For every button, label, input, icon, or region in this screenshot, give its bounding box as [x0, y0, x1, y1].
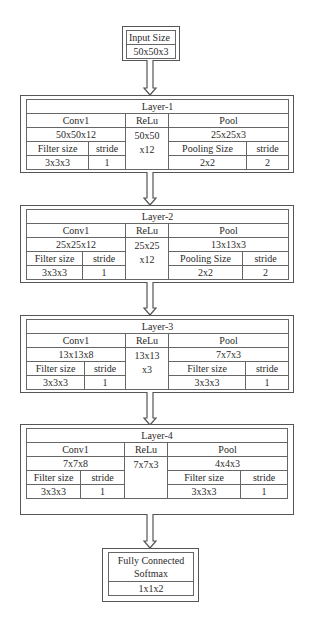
pool-stride: 2	[247, 156, 289, 170]
input-value: 50x50x3	[127, 45, 176, 59]
layer-3-table: Layer-3 Conv1 ReLu Pool 13x13x8 13x13x3 …	[26, 319, 289, 390]
conv-stride-label: stride	[83, 252, 126, 266]
conv-stride-label: stride	[89, 142, 126, 156]
conv-filter: 3x3x3	[27, 156, 89, 170]
arrow-down-icon	[140, 514, 160, 549]
pool-label: Pool	[169, 224, 289, 238]
layer-4-title: Layer-4	[27, 429, 288, 443]
conv-stride-label: stride	[81, 471, 125, 485]
relu-output: 13x13x3	[126, 348, 169, 390]
relu-output: 50x50x12	[126, 128, 169, 170]
pool-output: 4x4x3	[168, 457, 288, 471]
conv-filter: 3x3x3	[27, 485, 81, 499]
pool-size-label: Filter size	[169, 362, 246, 376]
pool-stride: 1	[246, 376, 289, 390]
arrow-down-icon	[140, 60, 160, 96]
conv-filter-label: Filter size	[27, 471, 81, 485]
conv-label: Conv1	[27, 334, 126, 348]
conv-filter: 3x3x3	[27, 266, 83, 280]
layer-3-title: Layer-3	[27, 320, 289, 334]
conv-output: 50x50x12	[27, 128, 126, 142]
conv-label: Conv1	[27, 114, 126, 128]
pool-output: 25x25x3	[169, 128, 289, 142]
pool-size-label: Filter size	[168, 471, 241, 485]
layer-2-title: Layer-2	[27, 210, 289, 224]
pool-size-label: Pooling Size	[169, 142, 247, 156]
output-label: Fully ConnectedSoftmax	[109, 553, 194, 582]
relu-label: ReLu	[126, 334, 169, 348]
conv-output: 13x13x8	[27, 348, 126, 362]
pool-output: 13x13x3	[169, 238, 289, 252]
pool-size: 2x2	[169, 266, 243, 280]
conv-filter-label: Filter size	[27, 142, 89, 156]
pool-label: Pool	[169, 334, 289, 348]
pool-label: Pool	[169, 114, 289, 128]
conv-label: Conv1	[27, 224, 126, 238]
input-table: Input Size 50x50x3	[126, 30, 176, 59]
pool-stride: 1	[241, 485, 288, 499]
pool-size: 3x3x3	[169, 376, 246, 390]
output-table: Fully ConnectedSoftmax 1x1x2	[108, 552, 194, 596]
conv-label: Conv1	[27, 443, 125, 457]
relu-output: 25x25x12	[126, 238, 169, 280]
pool-size: 2x2	[169, 156, 247, 170]
relu-output: 7x7x3	[125, 457, 168, 499]
pool-output: 7x7x3	[169, 348, 289, 362]
conv-filter: 3x3x3	[27, 376, 85, 390]
pool-stride-label: stride	[241, 471, 288, 485]
arrow-down-icon	[140, 282, 160, 316]
relu-label: ReLu	[126, 114, 169, 128]
conv-stride: 1	[85, 376, 126, 390]
conv-stride: 1	[89, 156, 126, 170]
pool-label: Pool	[168, 443, 288, 457]
conv-filter-label: Filter size	[27, 362, 85, 376]
conv-stride: 1	[81, 485, 125, 499]
pool-size-label: Pooling Size	[169, 252, 243, 266]
pool-stride-label: stride	[247, 142, 289, 156]
conv-stride-label: stride	[85, 362, 126, 376]
conv-output: 25x25x12	[27, 238, 126, 252]
arrow-down-icon	[140, 392, 160, 426]
input-label: Input Size	[127, 31, 176, 45]
pool-stride-label: stride	[246, 362, 289, 376]
layer-4-table: Layer-4 Conv1 ReLu Pool 7x7x8 7x7x3 4x4x…	[26, 428, 288, 499]
pool-stride: 2	[243, 266, 289, 280]
pool-stride-label: stride	[243, 252, 289, 266]
conv-filter-label: Filter size	[27, 252, 83, 266]
layer-2-table: Layer-2 Conv1 ReLu Pool 25x25x12 25x25x1…	[26, 209, 289, 280]
layer-1-table: Layer-1 Conv1 ReLu Pool 50x50x12 50x50x1…	[26, 99, 289, 170]
relu-label: ReLu	[126, 224, 169, 238]
arrow-down-icon	[140, 172, 160, 206]
conv-stride: 1	[83, 266, 126, 280]
conv-output: 7x7x8	[27, 457, 125, 471]
pool-size: 3x3x3	[168, 485, 241, 499]
output-value: 1x1x2	[109, 582, 194, 596]
relu-label: ReLu	[125, 443, 168, 457]
layer-1-title: Layer-1	[27, 100, 289, 114]
